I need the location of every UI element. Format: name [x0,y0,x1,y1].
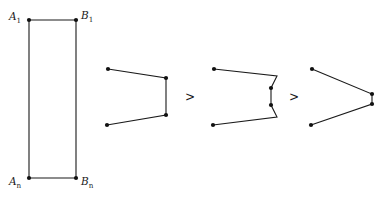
rectangle-vertex-a1 [27,18,31,22]
vertex-label-subscript: n [17,181,22,190]
shape-3-vertex-2 [370,92,374,96]
vertex-label-subscript: 1 [17,16,22,25]
vertex-label-subscript: 1 [89,15,94,24]
shape-1-vertex-2 [164,76,168,80]
vertex-label-base: B [80,175,89,187]
vertex-label-subscript: n [89,181,94,190]
relation-symbols-layer: >> [185,90,299,104]
polyline-shape-stepped-notch [211,67,277,127]
shape-2-path [213,69,277,125]
rectangle-vertex-dots [27,18,78,180]
shape-1-vertex-3 [164,113,168,117]
shape-3-vertex-4 [309,123,313,127]
shape-2-vertex-4 [211,123,215,127]
vertex-label-an: An [8,175,22,190]
rectangle-vertex-bn [74,176,78,180]
shape-2-vertex-1 [212,67,216,71]
diagram-canvas: A1B1AnBn >> [0,0,387,198]
relation-symbol-rel-1: > [185,90,195,104]
polyline-shapes-layer [105,67,374,127]
shape-1-vertex-1 [106,67,110,71]
rectangle-vertex-b1 [74,18,78,22]
shape-3-path [311,69,372,125]
shape-3-vertex-1 [310,67,314,71]
vertex-label-bn: Bn [80,175,94,190]
shape-3-vertex-3 [370,102,374,106]
shape-2-vertex-2 [269,86,273,90]
relation-symbol-rel-2: > [289,90,299,104]
rectangle-vertex-labels: A1B1AnBn [8,9,94,190]
vertex-label-base: B [80,9,89,21]
vertex-label-b1: B1 [80,9,93,24]
shape-2-vertex-3 [269,103,273,107]
vertex-label-a1: A1 [8,10,21,25]
polyline-shape-wide-notch [105,67,168,127]
labelled-rectangle: A1B1AnBn [8,9,94,190]
shape-1-vertex-4 [105,123,109,127]
shape-1-path [107,69,166,125]
rectangle-vertex-an [27,176,31,180]
polyline-shape-narrow-notch [309,67,374,127]
figure-root: A1B1AnBn >> [0,0,387,198]
rectangle-outline [29,20,76,178]
